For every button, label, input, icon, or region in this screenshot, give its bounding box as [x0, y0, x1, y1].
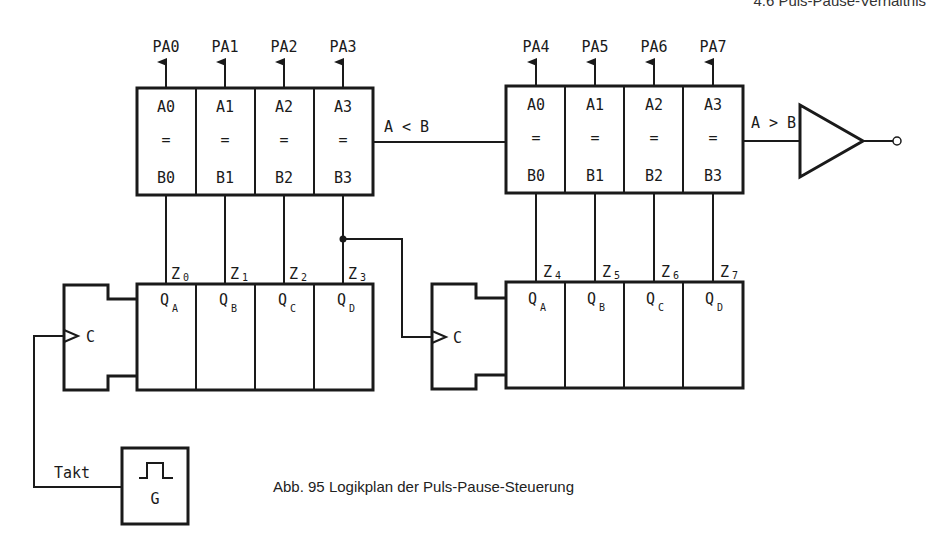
output-pa4: PA4	[522, 38, 549, 56]
output-qa: Q	[528, 290, 537, 308]
signal-z2: Z	[289, 265, 298, 283]
signal-z5: Z	[602, 263, 611, 281]
signal-z1: Z	[230, 265, 239, 283]
signal-z4: Z	[543, 263, 552, 281]
input-a2: A2	[645, 96, 663, 114]
input-a1: A1	[216, 98, 234, 116]
equal-symbol: =	[649, 129, 658, 147]
running-title: 4.6 Puls-Pause-Verhältnis	[753, 0, 926, 9]
input-b3: B3	[704, 167, 722, 185]
equal-symbol: =	[220, 131, 229, 149]
equal-symbol: =	[161, 131, 170, 149]
output-qb: Q	[587, 290, 596, 308]
signal-z1-sub: 1	[242, 272, 248, 283]
input-a1: A1	[586, 96, 604, 114]
clock-generator: G	[122, 448, 188, 524]
counter-1: C Q A Q B Q C Q D Z 0 Z 1 Z 2 Z 3	[64, 265, 373, 390]
signal-z6: Z	[661, 263, 670, 281]
input-a0: A0	[157, 98, 175, 116]
output-qc-sub: C	[658, 302, 664, 313]
output-qa: Q	[160, 291, 169, 309]
output-qa-sub: A	[540, 302, 546, 313]
input-b0: B0	[527, 167, 545, 185]
equal-symbol: =	[338, 131, 347, 149]
output-pa0: PA0	[152, 38, 179, 56]
input-b2: B2	[275, 169, 293, 187]
equal-symbol: =	[590, 129, 599, 147]
output-qd-sub: D	[717, 302, 723, 313]
signal-z6-sub: 6	[673, 270, 679, 281]
input-a3: A3	[334, 98, 352, 116]
input-a0: A0	[527, 96, 545, 114]
equal-symbol: =	[531, 129, 540, 147]
input-a2: A2	[275, 98, 293, 116]
input-b2: B2	[645, 167, 663, 185]
signal-z0-sub: 0	[183, 272, 189, 283]
signal-z3: Z	[348, 265, 357, 283]
output-qd: Q	[705, 290, 714, 308]
buffer-gate-icon	[800, 105, 863, 177]
counter-2: C Q A Q B Q C Q D Z 4 Z 5 Z 6 Z 7	[432, 263, 743, 389]
comparator-2: PA4 PA5 PA6 PA7 A0 A1 A2 A3 = = = = B0 B…	[506, 38, 743, 193]
output-qc: Q	[278, 291, 287, 309]
output-qa-sub: A	[172, 303, 178, 314]
output-qc-sub: C	[290, 303, 296, 314]
output-qd-sub: D	[349, 303, 355, 314]
equal-symbol: =	[279, 131, 288, 149]
signal-z2-sub: 2	[301, 272, 307, 283]
comparator-1: PA0 PA1 PA2 PA3 A0 A1 A2 A3 = = = = B0 B…	[137, 38, 373, 195]
signal-z7: Z	[720, 263, 729, 281]
pulse-icon	[139, 463, 173, 478]
equal-symbol: =	[708, 129, 717, 147]
input-b1: B1	[586, 167, 604, 185]
output-pa2: PA2	[270, 38, 297, 56]
output-qc: Q	[646, 290, 655, 308]
logic-diagram: 4.6 Puls-Pause-Verhältnis PA0 PA1 PA2 PA…	[0, 0, 929, 556]
generator-label: G	[150, 490, 159, 508]
output-pa5: PA5	[581, 38, 608, 56]
signal-z7-sub: 7	[732, 270, 738, 281]
output-pa1: PA1	[211, 38, 238, 56]
clock-signal-label: Takt	[54, 464, 90, 482]
wire-z3-to-clock	[343, 239, 432, 337]
clock-label: C	[453, 329, 462, 347]
input-b3: B3	[334, 169, 352, 187]
output-terminal-icon	[893, 137, 901, 145]
signal-z0: Z	[171, 265, 180, 283]
input-b1: B1	[216, 169, 234, 187]
output-qb: Q	[219, 291, 228, 309]
input-b0: B0	[157, 169, 175, 187]
output-pa7: PA7	[699, 38, 726, 56]
signal-z5-sub: 5	[614, 270, 620, 281]
output-qd: Q	[337, 291, 346, 309]
clock-label: C	[86, 328, 95, 346]
label-a-less-b: A < B	[384, 118, 429, 136]
label-a-greater-b: A > B	[751, 114, 796, 132]
signal-z3-sub: 3	[360, 272, 366, 283]
output-pa6: PA6	[640, 38, 667, 56]
output-qb-sub: B	[599, 302, 605, 313]
figure-caption: Abb. 95 Logikplan der Puls-Pause-Steueru…	[273, 478, 574, 495]
output-qb-sub: B	[231, 303, 237, 314]
output-pa3: PA3	[329, 38, 356, 56]
signal-z4-sub: 4	[555, 270, 561, 281]
input-a3: A3	[704, 96, 722, 114]
